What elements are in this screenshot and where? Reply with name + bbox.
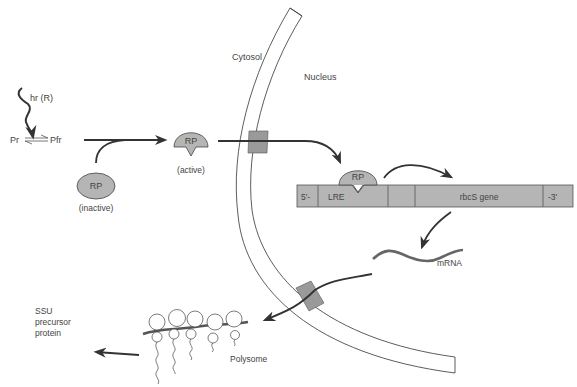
three-prime-label: -3' xyxy=(548,192,558,202)
nuclear-import-arrow xyxy=(218,141,340,162)
rp-active-label: RP xyxy=(185,136,198,146)
pfr-label: Pfr xyxy=(50,135,62,145)
rp-inactive-caption: (inactive) xyxy=(79,203,114,213)
product-label-line2: precursor xyxy=(35,317,71,327)
transcription-arrow xyxy=(422,212,451,247)
product-label-line3: protein xyxy=(35,328,61,338)
nuclear-pore-bottom xyxy=(296,281,324,311)
rp-active-caption: (active) xyxy=(177,165,205,175)
rp-inactive-label: RP xyxy=(90,181,103,191)
rp-join-curve xyxy=(96,140,125,163)
light-label: hr (R) xyxy=(30,93,53,103)
rp-bound-label: RP xyxy=(352,172,365,182)
polysome-label: Polysome xyxy=(230,354,268,364)
polysome-group xyxy=(143,310,248,385)
lre-label: LRE xyxy=(328,192,345,202)
rbcs-light-regulation-diagram: Cytosol Nucleus hr (R) Pr Pfr RP (inacti… xyxy=(0,0,577,387)
equilibrium-arrows-icon xyxy=(25,135,48,144)
gene-name-label: rbcS gene xyxy=(460,192,499,202)
cytosol-label: Cytosol xyxy=(232,52,262,62)
nuclear-pore-top xyxy=(248,131,268,153)
product-label-line1: SSU xyxy=(35,306,52,316)
pr-label: Pr xyxy=(10,135,19,145)
nucleus-label: Nucleus xyxy=(304,72,337,82)
transcription-activation-arrow xyxy=(384,165,451,178)
five-prime-label: 5'- xyxy=(301,192,310,202)
product-arrow xyxy=(96,352,139,355)
mrna-label: mRNA xyxy=(437,258,462,268)
